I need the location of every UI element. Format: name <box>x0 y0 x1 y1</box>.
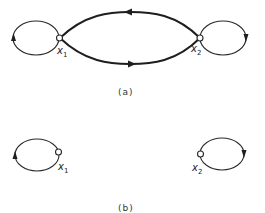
arrow-up-icon <box>13 151 18 159</box>
self-loop-x2-a <box>200 21 246 55</box>
graph-diagram: x1 x2 (a) x1 x2 (b) <box>0 0 265 213</box>
label-x1-b: x1 <box>57 161 68 175</box>
self-loop-x1-a <box>13 21 59 55</box>
node-x2-a <box>197 35 203 41</box>
label-x2-a: x2 <box>190 43 201 57</box>
panel-b: x1 x2 (b) <box>13 138 247 213</box>
arrow-up-icon <box>11 33 16 41</box>
edge-x1-x2-bottom <box>60 38 200 64</box>
self-loop-x1-b <box>15 139 59 171</box>
label-x2-b: x2 <box>191 162 202 176</box>
caption-a: (a) <box>118 87 134 97</box>
arrow-right-icon <box>128 61 136 68</box>
arrow-down-icon <box>244 34 249 42</box>
arrow-left-icon <box>124 9 132 16</box>
arrow-down-icon <box>242 150 247 158</box>
node-x1-a <box>57 35 63 41</box>
self-loop-x2-b <box>200 138 244 170</box>
caption-b: (b) <box>118 203 134 213</box>
node-x1-b <box>56 149 62 155</box>
panel-a: x1 x2 (a) <box>11 9 249 98</box>
edge-x2-x1-top <box>60 12 200 38</box>
label-x1-a: x1 <box>56 45 67 59</box>
node-x2-b <box>198 151 204 157</box>
